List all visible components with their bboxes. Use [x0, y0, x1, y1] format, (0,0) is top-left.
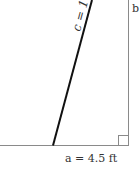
side-b-label: b	[132, 2, 139, 15]
side-a-label: a = 4.5 ft	[65, 152, 118, 165]
hypotenuse-label: c = 16	[69, 0, 93, 33]
triangle-diagram: c = 16 b a = 4.5 ft	[0, 0, 140, 178]
right-angle-marker	[119, 136, 129, 146]
